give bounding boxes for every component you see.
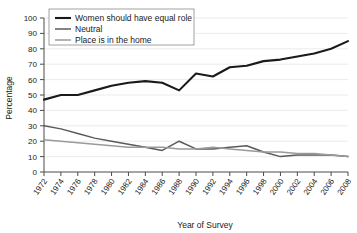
x-tick-label: 1994 (217, 177, 235, 197)
y-tick-label: 60 (28, 76, 37, 85)
legend-label: Place is in the home (75, 35, 152, 45)
legend-label: Women should have equal role (75, 13, 192, 23)
y-axis-title: Percentage (4, 76, 14, 120)
x-tick-label: 1990 (184, 177, 202, 197)
x-tick-label: 2006 (319, 177, 337, 197)
x-axis-ticks (44, 172, 348, 176)
y-tick-label: 30 (28, 122, 37, 131)
y-tick-label: 40 (28, 106, 37, 115)
y-tick-label: 10 (28, 153, 37, 162)
y-tick-label: 100 (24, 14, 38, 23)
line-chart: 1972197419761978198019821984198619881990… (0, 0, 357, 233)
x-tick-label: 1984 (133, 177, 151, 197)
x-tick-label: 1996 (234, 177, 252, 197)
y-tick-label: 20 (28, 137, 37, 146)
chart-container: 1972197419761978198019821984198619881990… (0, 0, 357, 233)
x-tick-label: 2004 (302, 177, 320, 197)
x-tick-label: 1974 (48, 177, 66, 197)
y-tick-label: 80 (28, 45, 37, 54)
x-tick-label: 1992 (200, 177, 218, 197)
x-tick-label: 2000 (268, 177, 286, 197)
legend-label: Neutral (75, 24, 103, 34)
y-axis-tick-labels: 0102030405060708090100 (24, 14, 38, 177)
y-tick-label: 70 (28, 60, 37, 69)
x-tick-label: 1978 (82, 177, 100, 197)
x-tick-label: 1982 (116, 177, 134, 197)
y-axis-ticks (40, 18, 44, 172)
y-tick-label: 90 (28, 29, 37, 38)
x-tick-label: 1988 (167, 177, 185, 197)
x-tick-label: 1976 (65, 177, 83, 197)
x-tick-label: 2002 (285, 177, 303, 197)
x-tick-label: 1980 (99, 177, 117, 197)
data-series (44, 41, 348, 157)
series-line (44, 41, 348, 100)
legend: Women should have equal roleNeutralPlace… (49, 9, 194, 45)
y-tick-label: 0 (33, 168, 38, 177)
x-tick-label: 2008 (336, 177, 354, 197)
x-tick-label: 1972 (32, 177, 50, 197)
x-axis-title: Year of Survey (177, 220, 233, 230)
y-tick-label: 50 (28, 91, 37, 100)
x-axis-tick-labels: 1972197419761978198019821984198619881990… (32, 177, 354, 197)
x-tick-label: 1986 (150, 177, 168, 197)
x-tick-label: 1998 (251, 177, 269, 197)
